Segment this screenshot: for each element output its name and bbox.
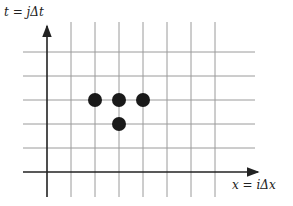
stencil-diagram [0, 0, 293, 206]
grid-lines [23, 22, 255, 197]
stencil-point [136, 93, 150, 107]
stencil-point [112, 93, 126, 107]
stencil-point [88, 93, 102, 107]
stencil-point [112, 117, 126, 131]
t-axis-label: t = jΔt [4, 5, 44, 19]
x-axis-label: x = iΔx [232, 178, 276, 192]
